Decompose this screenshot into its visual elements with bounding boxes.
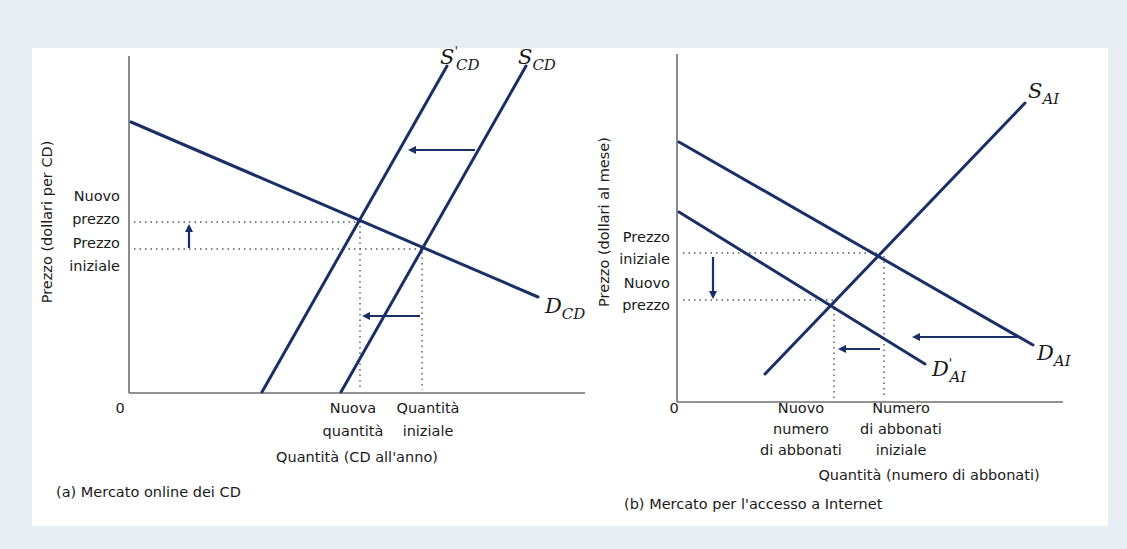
y-tick-initial-price-a-line2: iniziale xyxy=(69,258,120,274)
caption-a: (a) Mercato online dei CD xyxy=(56,484,241,500)
x-tick-new-quantity-a-line2: quantità xyxy=(323,423,384,439)
y-axis-title-a: Prezzo (dollari per CD) xyxy=(39,141,55,304)
x-tick-new-quantity-a-line1: Nuova xyxy=(330,400,376,416)
x-tick-new-subscribers-b-line1: Nuovo xyxy=(778,400,824,416)
origin-label-b: 0 xyxy=(669,400,678,416)
demand-curve-cd xyxy=(131,122,538,297)
x-axis-title-a: Quantità (CD all'anno) xyxy=(276,449,438,465)
y-tick-new-price-b-line1: Nuovo xyxy=(624,275,670,291)
x-tick-initial-quantity-a-line2: iniziale xyxy=(403,423,454,439)
label-d-ai: DAI xyxy=(1036,341,1072,370)
demand-curve-ai-new xyxy=(679,212,925,364)
x-tick-initial-subscribers-b-line2: di abbonati xyxy=(860,421,942,437)
x-tick-new-subscribers-b-line3: di abbonati xyxy=(760,442,842,458)
x-tick-initial-subscribers-b-line3: iniziale xyxy=(876,442,927,458)
supply-curve-ai xyxy=(765,103,1025,374)
label-s-ai: SAI xyxy=(1028,79,1060,108)
x-tick-initial-subscribers-b-line1: Numero xyxy=(872,400,930,416)
panel-a-cd-market: S'CD SCD DCD Nuovo prezzo Prezzo inizial… xyxy=(39,44,585,500)
x-axis-title-b: Quantità (numero di abbonati) xyxy=(818,467,1039,483)
caption-b: (b) Mercato per l'accesso a Internet xyxy=(624,496,883,512)
y-tick-new-price-a-line1: Nuovo xyxy=(74,188,120,204)
origin-label-a: 0 xyxy=(115,400,124,416)
y-tick-initial-price-b-line2: iniziale xyxy=(619,251,670,267)
y-tick-new-price-b-line2: prezzo xyxy=(622,297,670,313)
x-tick-new-subscribers-b-line2: numero xyxy=(773,421,829,437)
panel-b-internet-market: SAI DAI D'AI Prezzo iniziale Nuovo prezz… xyxy=(596,54,1072,512)
y-tick-new-price-a-line2: prezzo xyxy=(72,211,120,227)
y-axis-title-b: Prezzo (dollari al mese) xyxy=(596,137,612,307)
y-tick-initial-price-b-line1: Prezzo xyxy=(623,229,670,245)
label-d-cd: DCD xyxy=(544,294,585,323)
x-tick-initial-quantity-a-line1: Quantità xyxy=(397,400,460,416)
supply-curve-cd-initial xyxy=(341,66,526,392)
figure-svg: S'CD SCD DCD Nuovo prezzo Prezzo inizial… xyxy=(0,0,1127,549)
label-d-prime-ai: D'AI xyxy=(931,356,967,386)
supply-curve-cd-new xyxy=(262,66,447,392)
y-tick-initial-price-a-line1: Prezzo xyxy=(73,235,120,251)
